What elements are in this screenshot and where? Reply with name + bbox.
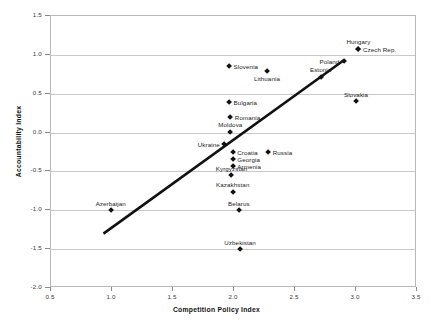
y-tick-mark [45,170,50,171]
x-axis-title: Competition Policy Index [0,306,433,313]
x-tick-label: 2.0 [218,293,248,300]
x-tick-mark [233,287,234,291]
x-tick-label: 2.5 [279,293,309,300]
x-tick-label: 1.5 [157,293,187,300]
diamond-marker-icon [229,172,235,178]
data-point-label: Kyrgyzstan [216,165,248,172]
diamond-marker-icon [264,68,270,74]
y-tick-label: -2.0 [16,283,42,290]
plot-area: HungaryCzech Rep.PolandEstoniaSloveniaLi… [50,15,416,287]
data-point-label: Moldova [218,121,242,128]
diamond-marker-icon [237,246,243,252]
diamond-marker-icon [230,189,236,195]
data-point-label: Azerbaijan [96,200,126,207]
x-tick-mark [50,287,51,291]
y-tick-label: 1.0 [16,50,42,57]
data-point-label: Bulgaria [234,99,258,106]
diamond-marker-icon [221,141,227,147]
data-point-label: Georgia [237,155,260,162]
x-tick-mark [111,287,112,291]
y-tick-mark [45,132,50,133]
x-tick-label: 0.5 [35,293,65,300]
data-point-label: Belarus [228,200,250,207]
diamond-marker-icon [108,207,114,213]
diamond-marker-icon [236,207,242,213]
data-point-label: Slovakia [344,91,368,98]
data-point-label: Czech Rep. [363,45,396,52]
y-tick-label: 1.5 [16,11,42,18]
x-tick-label: 1.0 [96,293,126,300]
y-tick-mark [45,93,50,94]
y-tick-mark [45,209,50,210]
x-tick-mark [416,287,417,291]
x-tick-label: 3.5 [401,293,431,300]
x-tick-label: 3.0 [340,293,370,300]
diamond-marker-icon [226,63,232,69]
y-tick-mark [45,248,50,249]
y-axis-title: Accountability Index [15,72,22,212]
diamond-marker-icon [341,58,347,64]
diamond-marker-icon [355,46,361,52]
data-point-label: Poland [319,58,339,65]
data-point-label: Romania [235,114,260,121]
data-points-layer: HungaryCzech Rep.PolandEstoniaSloveniaLi… [51,16,415,286]
x-tick-mark [294,287,295,291]
data-point-label: Kazakhstan [216,181,249,188]
x-tick-mark [172,287,173,291]
data-point-label: Slovenia [234,62,259,69]
y-tick-label: -1.5 [16,244,42,251]
data-point-label: Uzbekistan [224,239,256,246]
diamond-marker-icon [230,149,236,155]
diamond-marker-icon [227,114,233,120]
diamond-marker-icon [318,74,324,80]
data-point-label: Hungary [346,38,370,45]
x-tick-mark [355,287,356,291]
diamond-marker-icon [265,149,271,155]
data-point-label: Ukraine [198,141,220,148]
data-point-label: Croatia [237,149,258,156]
diamond-marker-icon [353,99,359,105]
data-point-label: Russia [273,149,293,156]
y-tick-mark [45,54,50,55]
diamond-marker-icon [227,129,233,135]
data-point-label: Lithuania [254,75,280,82]
diamond-marker-icon [226,99,232,105]
data-point-label: Estonia [310,66,331,73]
scatter-chart: HungaryCzech Rep.PolandEstoniaSloveniaLi… [0,0,433,325]
y-tick-mark [45,15,50,16]
diamond-marker-icon [230,156,236,162]
